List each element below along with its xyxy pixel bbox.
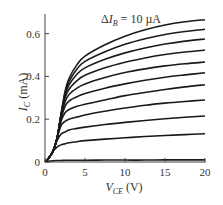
y-tick-label: 0.2 [26, 113, 40, 125]
annotation: ΔIB = 10 µA [101, 12, 161, 28]
x-tick-label: 20 [200, 166, 212, 178]
x-tick-label: 10 [120, 166, 132, 178]
x-tick-label: 15 [160, 166, 172, 178]
x-axis-label: VCE (V) [105, 180, 142, 196]
characteristic-curves [45, 20, 205, 162]
y-axis-label: IC (mA) [16, 73, 32, 112]
curve [45, 134, 205, 162]
curve [45, 50, 205, 162]
x-tick-label: 0 [42, 166, 48, 178]
chart: 05101520 00.20.40.6 ΔIB = 10 µA VCE (V) … [0, 0, 223, 205]
x-tick-label: 5 [82, 166, 88, 178]
y-tick-label: 0.6 [26, 28, 40, 40]
curve [45, 85, 205, 162]
curve [45, 116, 205, 162]
y-tick-label: 0 [35, 156, 41, 168]
